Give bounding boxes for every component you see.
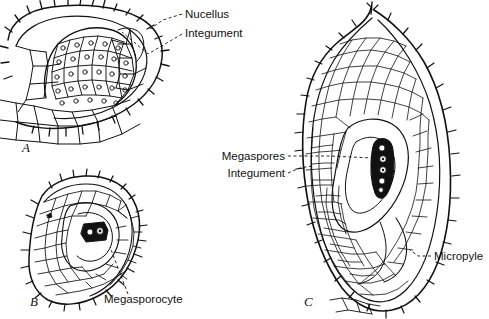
ovule-development-figure: Nucellus Integument Megasporocyte Megasp… [0,0,489,319]
panel-b-megasporocyte [81,222,108,242]
label-micropyle: Micropyle [434,250,483,262]
panel-label-b: B [30,294,38,309]
label-nucellus: Nucellus [185,8,229,20]
label-integument-c: Integument [227,167,285,179]
label-megasporocyte: Megasporocyte [104,293,183,305]
label-megaspores: Megaspores [222,150,286,162]
panel-label-c: C [304,294,313,309]
label-integument-a: Integument [185,27,243,39]
panel-label-a: A [21,140,30,155]
